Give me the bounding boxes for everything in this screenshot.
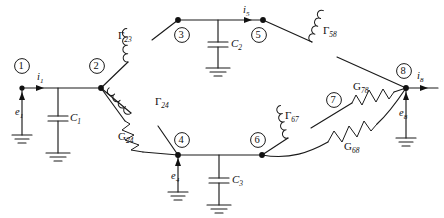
component-label-g-78: G78 <box>353 81 368 95</box>
g-24-base: G <box>118 130 126 142</box>
c3-sub: 3 <box>239 179 243 188</box>
i1-sub: 1 <box>40 77 44 85</box>
wire-inductor-g58-to-node8 <box>337 57 406 88</box>
junction-dot-node-6 <box>259 152 265 158</box>
gamma-58-sub: 58 <box>329 30 336 39</box>
node-label-6: 6 <box>255 135 260 146</box>
node-label-5: 5 <box>256 30 261 41</box>
wire-node5-to-inductor-g58 <box>263 20 312 42</box>
g-68-sub: 68 <box>352 146 359 155</box>
ground-symbol-c1 <box>46 153 70 161</box>
component-label-g-24: G24 <box>118 131 133 145</box>
node-label-7: 7 <box>331 95 336 106</box>
node-label-8: 8 <box>401 66 406 77</box>
circuit-schematic-svg <box>0 0 444 218</box>
gamma-67-sub: 67 <box>291 115 298 124</box>
component-label-gamma-58: Γ58 <box>323 25 337 39</box>
junction-dot-node-2 <box>98 85 104 91</box>
source-label-e4: e4 <box>171 171 179 184</box>
e1-sub: 1 <box>20 112 24 120</box>
component-label-gamma-24: Γ24 <box>155 96 169 110</box>
component-label-gamma-67: Γ67 <box>285 110 299 124</box>
wire-node2-to-inductor-g23 <box>101 62 128 88</box>
current-label-i8: i8 <box>417 71 423 84</box>
source-label-e8: e8 <box>399 108 407 121</box>
wire-node6-to-resistor-g68 <box>262 142 328 157</box>
c1-sub: 1 <box>77 117 81 126</box>
g-68-base: G <box>344 140 352 152</box>
component-label-g-68: G68 <box>344 141 359 155</box>
component-label-c1: C1 <box>70 112 81 126</box>
component-label-c3: C3 <box>232 174 243 188</box>
current-label-i5: i5 <box>243 5 249 18</box>
source-label-e1: e1 <box>15 107 23 120</box>
node-label-2: 2 <box>94 61 99 72</box>
junction-dot-node-3 <box>175 17 181 23</box>
ground-symbol-c3 <box>207 205 231 213</box>
i5-sub: 5 <box>246 10 250 18</box>
junction-dot-node-8 <box>403 85 409 91</box>
e8-sub: 8 <box>404 113 408 121</box>
g-24-sub: 24 <box>126 136 133 145</box>
node-label-4: 4 <box>179 135 184 146</box>
current-arrow-i1 <box>36 85 44 91</box>
ground-symbol-c2 <box>206 68 230 76</box>
g-78-base: G <box>353 80 361 92</box>
wire-inductor-g23-to-node3 <box>152 20 178 40</box>
node-label-1: 1 <box>19 61 24 72</box>
wire-node6-to-inductor-g67 <box>262 138 288 155</box>
node-label-3: 3 <box>179 30 184 41</box>
c2-sub: 2 <box>238 43 242 52</box>
circuit-diagram: 1 2 3 4 5 6 7 8 Γ23 Γ24 G24 Γ58 Γ67 G78 … <box>0 0 444 218</box>
e4-sub: 4 <box>176 176 180 184</box>
i8-sub: 8 <box>420 76 424 84</box>
current-label-i1: i1 <box>37 72 43 85</box>
wire-resistor-g24-to-node4 <box>143 152 178 155</box>
junction-dot-node-4 <box>175 152 181 158</box>
resistor-g68 <box>328 121 377 142</box>
junction-dot-node-5 <box>260 17 266 23</box>
gamma-23-sub: 23 <box>124 35 131 44</box>
component-label-gamma-23: Γ23 <box>118 30 132 44</box>
current-arrow-i8 <box>420 85 428 91</box>
junction-dot-node-1 <box>19 85 24 90</box>
component-label-c2: C2 <box>231 38 242 52</box>
g-78-sub: 78 <box>361 86 368 95</box>
gamma-24-sub: 24 <box>161 101 168 110</box>
